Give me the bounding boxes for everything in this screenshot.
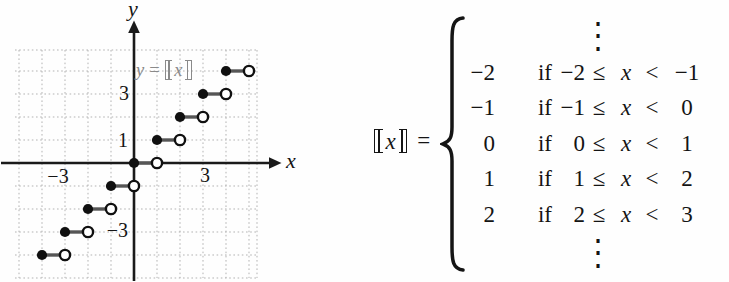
double-bracket-left-icon xyxy=(374,129,383,153)
case-if-word: if xyxy=(495,58,552,88)
case-if-word: if xyxy=(495,164,552,194)
floor-brackets: x xyxy=(374,129,407,153)
piecewise-case-row: −2 if −2 ≤ x < −1 xyxy=(455,55,709,91)
lt-sign: < xyxy=(639,164,665,194)
case-upper-bound: 3 xyxy=(665,200,709,230)
case-value: 1 xyxy=(455,164,495,194)
case-lower-bound: −2 xyxy=(552,58,585,88)
vertical-ellipsis: ⋮ xyxy=(583,18,613,54)
equation-lhs-var: x xyxy=(383,129,399,153)
case-variable: x xyxy=(613,93,639,123)
leq-sign: ≤ xyxy=(585,200,613,230)
case-lower-bound: 1 xyxy=(552,164,585,194)
piecewise-cases: ⋮ −2 if −2 ≤ x < −1 −1 if −1 ≤ x < 0 0 xyxy=(455,17,709,273)
case-value: 0 xyxy=(455,129,495,159)
leq-sign: ≤ xyxy=(585,93,613,123)
case-if-word: if xyxy=(495,129,552,159)
case-if-word: if xyxy=(495,93,552,123)
equation-lhs: x = xyxy=(374,127,430,155)
case-value: −2 xyxy=(455,58,495,88)
piecewise-case-row: 2 if 2 ≤ x < 3 xyxy=(455,197,709,233)
piecewise-case-row: 0 if 0 ≤ x < 1 xyxy=(455,126,709,162)
piecewise-definition: x = ⋮ −2 if −2 ≤ x < −1 −1 if −1 xyxy=(0,0,729,282)
lt-sign: < xyxy=(639,93,665,123)
ellipsis-top: ⋮ xyxy=(455,17,709,55)
lt-sign: < xyxy=(639,58,665,88)
leq-sign: ≤ xyxy=(585,129,613,159)
case-variable: x xyxy=(613,200,639,230)
case-value: 2 xyxy=(455,200,495,230)
double-bracket-right-icon xyxy=(399,129,408,153)
case-upper-bound: 0 xyxy=(665,93,709,123)
equals-sign: = xyxy=(417,127,430,155)
case-value: −1 xyxy=(455,93,495,123)
leq-sign: ≤ xyxy=(585,58,613,88)
case-lower-bound: 0 xyxy=(552,129,585,159)
vertical-ellipsis: ⋮ xyxy=(583,235,613,271)
case-variable: x xyxy=(613,164,639,194)
case-upper-bound: 2 xyxy=(665,164,709,194)
case-upper-bound: 1 xyxy=(665,129,709,159)
piecewise-case-row: 1 if 1 ≤ x < 2 xyxy=(455,162,709,198)
case-variable: x xyxy=(613,58,639,88)
figure: y x 3 1 −3 3 −3 y = x x = xyxy=(0,0,729,282)
ellipsis-bottom: ⋮ xyxy=(455,233,709,273)
case-upper-bound: −1 xyxy=(665,58,709,88)
lt-sign: < xyxy=(639,200,665,230)
piecewise-case-row: −1 if −1 ≤ x < 0 xyxy=(455,91,709,127)
lt-sign: < xyxy=(639,129,665,159)
case-lower-bound: 2 xyxy=(552,200,585,230)
leq-sign: ≤ xyxy=(585,164,613,194)
case-variable: x xyxy=(613,129,639,159)
case-if-word: if xyxy=(495,200,552,230)
case-lower-bound: −1 xyxy=(552,93,585,123)
